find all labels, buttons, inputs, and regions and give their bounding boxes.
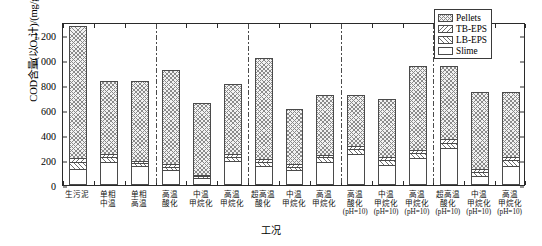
bar-segment-pellets xyxy=(378,99,396,157)
bar-segment-tb-eps xyxy=(255,159,273,162)
bar-segment-pellets xyxy=(100,81,118,154)
bar-4 xyxy=(162,70,180,185)
bar-12 xyxy=(409,66,427,185)
legend-swatch-tb-eps-icon xyxy=(438,25,453,33)
bar-segment-lb-eps xyxy=(316,157,334,162)
x-tick-mark xyxy=(403,181,404,185)
bar-segment-slime xyxy=(471,176,489,185)
x-tick-mark xyxy=(464,181,465,185)
y-tick-mark-right xyxy=(520,161,524,162)
x-tick-label: 高温甲烷化 xyxy=(312,190,336,208)
bar-segment-lb-eps xyxy=(440,143,458,148)
bar-segment-pellets xyxy=(440,66,458,139)
legend-item-pellets: Pellets xyxy=(438,12,487,23)
x-tick-mark xyxy=(279,181,280,185)
legend-item-tb-eps: TB-EPS xyxy=(438,23,487,34)
bar-segment-lb-eps xyxy=(100,157,118,162)
bar-segment-slime xyxy=(378,165,396,185)
x-axis-labels: 生污泥单相中温单相高温高温酸化中温甲烷化高温甲烷化超高温酸化中温甲烷化高温甲烷化… xyxy=(62,188,525,230)
x-tick-mark xyxy=(125,24,126,28)
x-tick-mark xyxy=(372,181,373,185)
x-tick-mark xyxy=(372,24,373,28)
bar-segment-slime xyxy=(409,158,427,185)
bar-segment-tb-eps xyxy=(378,157,396,160)
bar-segment-pellets xyxy=(255,58,273,159)
x-tick-mark xyxy=(217,181,218,185)
bar-8 xyxy=(286,109,304,185)
bar-segment-slime xyxy=(440,148,458,185)
y-tick-label: 600 xyxy=(0,105,56,116)
x-tick-mark xyxy=(125,181,126,185)
x-tick-label: 中温甲烷化(pH=10) xyxy=(466,190,491,218)
bar-segment-tb-eps xyxy=(224,154,242,156)
y-tick-mark xyxy=(63,36,67,37)
bar-segment-tb-eps xyxy=(316,155,334,158)
x-tick-mark xyxy=(217,24,218,28)
bar-14 xyxy=(471,92,489,185)
bar-segment-slime xyxy=(316,162,334,185)
bar-3 xyxy=(131,81,149,185)
y-tick-mark-right xyxy=(520,61,524,62)
bar-segment-slime xyxy=(502,166,520,185)
legend-label-slime: Slime xyxy=(456,46,478,56)
bar-1 xyxy=(69,26,87,185)
bar-13 xyxy=(440,66,458,185)
x-tick-label: 中温甲烷化(pH=10) xyxy=(374,190,399,218)
bar-15 xyxy=(502,92,520,185)
bar-segment-pellets xyxy=(502,92,520,157)
bar-segment-lb-eps xyxy=(378,160,396,165)
y-tick-mark xyxy=(63,136,67,137)
legend-label-pellets: Pellets xyxy=(456,13,481,23)
bar-segment-tb-eps xyxy=(502,157,520,160)
y-tick-mark xyxy=(63,86,67,87)
bar-segment-pellets xyxy=(347,95,365,146)
legend-item-lb-eps: LB-EPS xyxy=(438,34,487,45)
x-tick-mark xyxy=(525,24,526,28)
bar-segment-tb-eps xyxy=(440,139,458,143)
x-tick-label: 高温甲烷化 xyxy=(220,190,244,208)
bar-11 xyxy=(378,99,396,186)
bar-segment-slime xyxy=(69,169,87,185)
bar-segment-lb-eps xyxy=(69,162,87,169)
bar-segment-lb-eps xyxy=(131,163,149,166)
x-tick-mark xyxy=(279,24,280,28)
x-tick-mark xyxy=(310,181,311,185)
bar-segment-slime xyxy=(347,154,365,185)
bar-segment-lb-eps xyxy=(193,176,211,178)
group-divider-line xyxy=(156,24,157,185)
x-tick-mark xyxy=(63,181,64,185)
x-tick-mark xyxy=(94,181,95,185)
x-tick-mark xyxy=(186,24,187,28)
x-tick-label: 高温酸化(pH=10) xyxy=(343,190,368,218)
y-tick-mark xyxy=(63,161,67,162)
bar-segment-pellets xyxy=(316,95,334,155)
x-tick-label: 单相高温 xyxy=(131,190,147,208)
x-tick-mark xyxy=(310,24,311,28)
y-tick-label: 200 xyxy=(0,155,56,166)
chart-figure: COD含量(以O₂计)/(mg/g) 工况 02004006008001 000… xyxy=(0,0,542,246)
bar-segment-lb-eps xyxy=(347,149,365,154)
bar-segment-tb-eps xyxy=(347,146,365,149)
y-tick-label: 800 xyxy=(0,80,56,91)
bar-segment-lb-eps xyxy=(286,167,304,170)
bar-segment-tb-eps xyxy=(131,161,149,164)
bar-segment-pellets xyxy=(409,66,427,149)
y-tick-mark-right xyxy=(520,111,524,112)
y-tick-mark-right xyxy=(520,36,524,37)
x-tick-label: 超高温酸化(pH=10) xyxy=(435,190,460,218)
bar-segment-lb-eps xyxy=(409,153,427,159)
legend-swatch-pellets-icon xyxy=(438,14,453,22)
bar-segment-lb-eps xyxy=(255,162,273,166)
y-tick-label: 400 xyxy=(0,130,56,141)
bar-segment-lb-eps xyxy=(224,157,242,161)
x-tick-label: 中温甲烷化 xyxy=(282,190,306,208)
y-tick-mark-right xyxy=(520,86,524,87)
x-tick-label: 超高温酸化 xyxy=(251,190,275,208)
bar-segment-pellets xyxy=(471,92,489,169)
bar-segment-slime xyxy=(162,170,180,185)
bar-10 xyxy=(347,95,365,185)
legend: Pellets TB-EPS LB-EPS Slime xyxy=(434,9,492,59)
bar-segment-pellets xyxy=(224,84,242,154)
bar-segment-tb-eps xyxy=(100,154,118,157)
bar-9 xyxy=(316,95,334,185)
